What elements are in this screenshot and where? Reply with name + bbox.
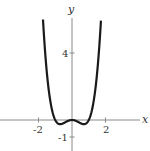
x-tick-label-neg2: -2 [33, 124, 43, 135]
function-plot: y x -2 2 4 -1 [0, 0, 150, 151]
y-tick-label-4: 4 [62, 48, 68, 59]
x-tick-label-2: 2 [103, 124, 109, 135]
y-axis-label: y [67, 3, 75, 16]
y-tick-label-neg1: -1 [58, 132, 68, 143]
x-axis-label: x [142, 113, 149, 126]
